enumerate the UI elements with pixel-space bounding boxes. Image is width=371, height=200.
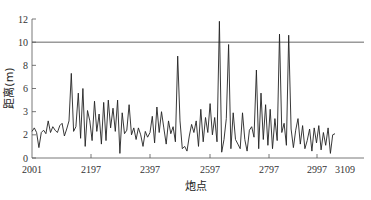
y-axis-title: 距离(m) — [2, 67, 16, 108]
y-axis-ticks: 023681012 — [18, 14, 36, 164]
y-axis-label: 距离(m) — [2, 67, 16, 108]
x-tick-label: 2397 — [140, 164, 160, 175]
x-axis-ticks: 2001219723972597279729973109 — [22, 154, 355, 175]
y-tick-label: 10 — [18, 37, 28, 48]
x-tick-label: 2597 — [200, 164, 220, 175]
x-tick-label: 2001 — [22, 164, 42, 175]
y-tick-label: 2 — [23, 129, 28, 140]
y-tick-label: 3 — [23, 106, 28, 117]
distance-series-line — [32, 21, 335, 153]
x-tick-label: 3109 — [335, 164, 355, 175]
y-tick-label: 8 — [23, 60, 28, 71]
x-tick-label: 2797 — [259, 164, 279, 175]
y-tick-label: 6 — [23, 83, 28, 94]
x-tick-label: 2197 — [81, 164, 101, 175]
x-tick-label: 2997 — [307, 164, 327, 175]
line-chart: 距离(m) 炮点 023681012 200121972397259727972… — [0, 0, 371, 200]
x-axis-label: 炮点 — [185, 180, 207, 193]
y-tick-label: 12 — [18, 14, 28, 25]
y-tick-label: 0 — [23, 153, 28, 164]
series-polyline — [32, 21, 335, 153]
